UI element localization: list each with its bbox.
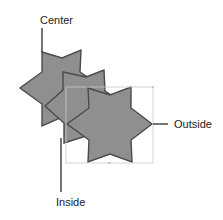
center-label: Center: [40, 14, 73, 26]
outside-label: Outside: [174, 118, 212, 130]
selection-handle: [152, 86, 154, 88]
selection-handle: [108, 162, 111, 164]
stroke-alignment-diagram: Center Inside Outside: [0, 0, 223, 220]
inside-label: Inside: [56, 196, 85, 208]
